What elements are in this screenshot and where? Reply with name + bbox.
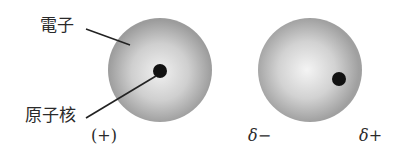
nucleus-charge-label: (+): [91, 128, 117, 144]
polarized-atom: [258, 18, 362, 122]
electron-label: 電子: [40, 17, 74, 34]
neutral-atom: [108, 18, 212, 122]
electron-cloud: [258, 18, 362, 122]
nucleus: [332, 72, 346, 86]
partial-negative-label: δ−: [248, 128, 271, 144]
partial-positive-label: δ+: [359, 128, 382, 144]
nucleus-label: 原子核: [25, 107, 76, 124]
